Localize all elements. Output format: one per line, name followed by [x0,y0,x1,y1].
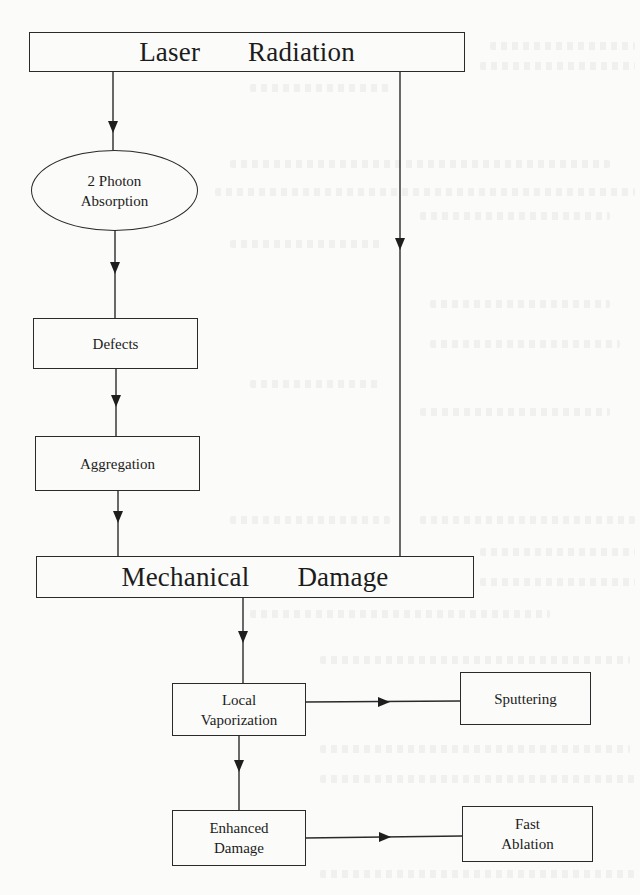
node-defects: Defects [33,318,198,369]
node-label: Radiation [248,37,355,68]
node-mechanical-damage: Mechanical Damage [36,556,474,598]
arrowhead-icon [379,832,391,842]
node-label: Ablation [501,834,554,854]
node-label: Defects [93,334,139,354]
arrowhead-icon [378,697,390,707]
node-label: Aggregation [80,454,155,474]
arrowhead-icon [108,121,118,133]
arrowhead-icon [111,395,121,407]
node-label: Enhanced [209,818,268,838]
arrowhead-icon [110,262,120,274]
node-label: Local [222,690,256,710]
node-sputtering: Sputtering [460,672,591,725]
arrowhead-icon [238,631,248,643]
arrowhead-icon [395,238,405,250]
node-label: Damage [214,838,264,858]
node-aggregation: Aggregation [35,436,200,491]
node-label: Fast [515,814,540,834]
node-label: Damage [297,562,388,593]
node-label: Mechanical [121,562,249,593]
arrowhead-icon [234,760,244,772]
node-label: Laser [139,37,200,68]
scanned-page: Laser Radiation 2 Photon Absorption Defe… [0,0,640,895]
node-two-photon-absorption: 2 Photon Absorption [31,150,198,231]
node-local-vaporization: Local Vaporization [172,683,306,736]
node-label: Absorption [81,191,149,211]
node-label: Vaporization [201,710,278,730]
arrowhead-icon [113,511,123,523]
node-label: 2 Photon [88,171,142,191]
node-enhanced-damage: Enhanced Damage [172,810,306,866]
node-fast-ablation: Fast Ablation [462,806,593,862]
node-laser-radiation: Laser Radiation [29,32,465,72]
node-label: Sputtering [494,689,557,709]
